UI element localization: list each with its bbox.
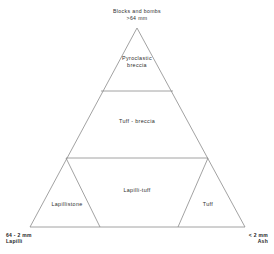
apex-label-line1: Blocks and bombs [113, 8, 161, 15]
field-label-tuff-breccia-line1: Tuff - breccia [119, 118, 155, 125]
ternary-diagram: Blocks and bombs >64 mm Pyroclastic brec… [0, 0, 274, 254]
right-corner-label: < 2 mm Ash [249, 232, 268, 245]
ternary-diagram-svg [0, 0, 274, 254]
field-label-lapilli-tuff-line1: Lapilli-tuff [123, 187, 150, 194]
left-corner-label-line2: Lapilli [6, 238, 32, 244]
field-label-pyroclastic-breccia: Pyroclastic breccia [122, 55, 152, 68]
field-label-lapillistone: Lapillistone [51, 201, 82, 208]
field-label-lapilli-tuff: Lapilli-tuff [123, 187, 150, 194]
field-label-pyroclastic-breccia-line1: Pyroclastic [122, 55, 152, 62]
apex-label: Blocks and bombs >64 mm [113, 8, 161, 21]
apex-label-line2: >64 mm [113, 15, 161, 22]
left-corner-label: 64 - 2 mm Lapilli [6, 232, 32, 245]
field-label-tuff: Tuff [203, 201, 213, 208]
field-label-lapillistone-line1: Lapillistone [51, 201, 82, 208]
divider-line-right-diagonal [178, 158, 208, 227]
field-label-tuff-line1: Tuff [203, 201, 213, 208]
right-corner-label-line2: Ash [249, 238, 268, 244]
field-label-pyroclastic-breccia-line2: breccia [122, 62, 152, 69]
divider-line-left-diagonal [66, 158, 100, 227]
field-label-tuff-breccia: Tuff - breccia [119, 118, 155, 125]
